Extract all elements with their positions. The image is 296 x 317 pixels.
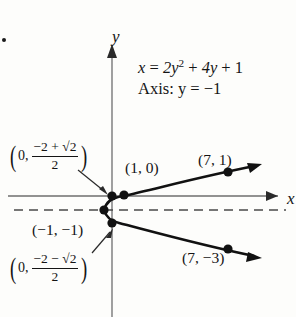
parabola-figure: y x x = 2y2 + 4y + 1 Axis: y = −1 (1, 0)… [0,0,296,317]
leader-line-vertex [92,232,110,253]
y-axis-label: y [112,28,120,45]
paren-close-upper: ) [81,143,87,169]
equation-quadratic-term: 2y [163,58,179,77]
equation-line: x = 2y2 + 4y + 1 [138,60,243,77]
parabola-upper-arrowhead [247,163,262,173]
fraction-lower: −2 − √2 2 [32,252,79,284]
y-axis-arrowhead [107,44,117,58]
equation-plus-1: + [188,58,197,77]
intercept-lower-x: 0, [18,260,29,276]
equation-equals: = [149,58,158,77]
fraction-upper-denominator: 2 [52,157,59,173]
fraction-lower-denominator: 2 [52,269,59,285]
equation-linear-term: 4y [202,58,218,77]
fraction-upper-numerator: −2 + √2 [32,140,79,157]
leader-line-upper-intercept [78,170,104,191]
point-7-1-dot [223,167,232,176]
label-point-1-0: (1, 0) [125,160,159,176]
point-intercept-lower-dot [107,218,116,227]
point-intercept-upper-dot [107,191,116,200]
axis-of-symmetry-text: Axis: y = −1 [138,81,243,98]
paren-close-lower: ) [81,255,87,281]
point-1-0-dot [119,190,128,199]
equation-plus-2: + [221,58,230,77]
point-vertex-dot [99,205,108,214]
label-point-7-1: (7, 1) [198,152,232,168]
parabola-lower-arrowhead [246,252,262,262]
fraction-upper: −2 + √2 2 [32,140,79,172]
label-intercept-upper: ( 0, −2 + √2 2 ) [8,140,89,172]
x-axis-arrowhead [266,191,278,201]
fraction-lower-numerator: −2 − √2 [32,252,79,269]
paren-open-upper: ( [10,143,16,169]
equation-exponent: 2 [178,57,184,69]
equation-block: x = 2y2 + 4y + 1 Axis: y = −1 [138,60,243,101]
point-7-neg3-dot [223,244,232,253]
label-point-7-neg3: (7, −3) [182,250,224,266]
intercept-upper-x: 0, [18,148,29,164]
label-intercept-lower: ( 0, −2 − √2 2 ) [8,252,89,284]
x-axis-label: x [287,190,295,207]
paren-open-lower: ( [10,255,16,281]
equation-constant: 1 [235,58,243,77]
equation-lhs: x [138,58,145,77]
label-vertex: (−1, −1) [32,222,83,238]
